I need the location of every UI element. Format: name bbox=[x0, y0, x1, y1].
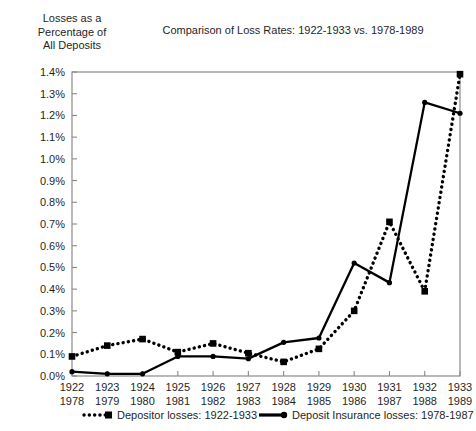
x-tick-label-bottom: 1980 bbox=[130, 395, 154, 407]
y-axis-caption: Losses as a Percentage of All Deposits bbox=[16, 12, 128, 53]
data-point-marker bbox=[139, 336, 146, 343]
data-point-marker bbox=[175, 354, 180, 359]
data-point-marker bbox=[69, 353, 76, 360]
x-tick-label-top: 1932 bbox=[412, 381, 436, 393]
data-point-marker bbox=[316, 335, 321, 340]
x-tick-label-bottom: 1988 bbox=[412, 395, 436, 407]
x-tick-label-top: 1922 bbox=[60, 381, 84, 393]
data-point-marker bbox=[386, 219, 393, 226]
data-series-group bbox=[69, 71, 464, 377]
y-tick-label: 0.4% bbox=[40, 283, 65, 295]
y-tick-label: 0.7% bbox=[40, 218, 65, 230]
x-tick-label-bottom: 1984 bbox=[271, 395, 295, 407]
x-tick-label-top: 1933 bbox=[448, 381, 472, 393]
legend-marker-circle bbox=[281, 412, 287, 418]
legend-marker-square bbox=[105, 412, 112, 419]
y-tick-label: 1.1% bbox=[40, 131, 65, 143]
x-tick-label-bottom: 1979 bbox=[95, 395, 119, 407]
data-point-marker bbox=[351, 308, 358, 315]
y-tick-label: 0.2% bbox=[40, 327, 65, 339]
y-tick-label: 0.1% bbox=[40, 348, 65, 360]
y-tick-label: 0.3% bbox=[40, 305, 65, 317]
x-tick-label-top: 1928 bbox=[271, 381, 295, 393]
data-point-marker bbox=[69, 369, 74, 374]
data-point-marker bbox=[421, 288, 428, 295]
data-point-marker bbox=[280, 359, 287, 366]
data-point-marker bbox=[422, 100, 427, 105]
x-tick-label-top: 1929 bbox=[307, 381, 331, 393]
y-tick-label: 1.0% bbox=[40, 153, 65, 165]
data-point-marker bbox=[104, 342, 111, 349]
y-tick-label: 0.9% bbox=[40, 175, 65, 187]
legend-label-depositor-losses: Depositor losses: 1922-1933 bbox=[117, 409, 257, 421]
chart-legend: Depositor losses: 1922-1933Deposit Insur… bbox=[84, 409, 474, 421]
data-point-marker bbox=[281, 340, 286, 345]
x-tick-label-top: 1930 bbox=[342, 381, 366, 393]
data-point-marker bbox=[140, 371, 145, 376]
y-tick-label: 1.3% bbox=[40, 88, 65, 100]
chart-title: Comparison of Loss Rates: 1922-1933 vs. … bbox=[128, 24, 458, 36]
data-point-marker bbox=[210, 354, 215, 359]
y-tick-label: 0.5% bbox=[40, 261, 65, 273]
chart-figure: Losses as a Percentage of All Deposits C… bbox=[0, 0, 476, 431]
series-line-2 bbox=[72, 102, 460, 373]
x-tick-label-bottom: 1987 bbox=[377, 395, 401, 407]
x-tick-label-top: 1931 bbox=[377, 381, 401, 393]
x-tick-label-bottom: 1982 bbox=[201, 395, 225, 407]
x-tick-label-top: 1926 bbox=[201, 381, 225, 393]
data-point-marker bbox=[387, 280, 392, 285]
data-point-marker bbox=[316, 346, 323, 353]
x-tick-label-bottom: 1983 bbox=[236, 395, 260, 407]
data-point-marker bbox=[210, 340, 217, 347]
y-tick-label: 1.4% bbox=[40, 66, 65, 78]
data-point-marker bbox=[352, 260, 357, 265]
data-point-marker bbox=[457, 111, 462, 116]
y-tick-label: 0.8% bbox=[40, 196, 65, 208]
data-point-marker bbox=[245, 350, 252, 357]
x-tick-label-bottom: 1989 bbox=[448, 395, 472, 407]
data-point-marker bbox=[105, 371, 110, 376]
y-tick-label: 0.6% bbox=[40, 240, 65, 252]
y-tick-label: 1.2% bbox=[40, 109, 65, 121]
plot-area: 0.0%0.1%0.2%0.3%0.4%0.5%0.6%0.7%0.8%0.9%… bbox=[0, 0, 476, 431]
x-tick-label-bottom: 1986 bbox=[342, 395, 366, 407]
data-point-marker bbox=[457, 71, 464, 78]
x-tick-label-top: 1923 bbox=[95, 381, 119, 393]
x-tick-label-bottom: 1981 bbox=[166, 395, 190, 407]
x-tick-label-top: 1924 bbox=[130, 381, 154, 393]
x-tick-label-bottom: 1978 bbox=[60, 395, 84, 407]
x-tick-label-bottom: 1985 bbox=[307, 395, 331, 407]
legend-label-deposit-insurance-losses: Deposit Insurance losses: 1978-1987 bbox=[292, 409, 474, 421]
x-tick-label-top: 1925 bbox=[166, 381, 190, 393]
data-point-marker bbox=[246, 356, 251, 361]
x-tick-label-top: 1927 bbox=[236, 381, 260, 393]
